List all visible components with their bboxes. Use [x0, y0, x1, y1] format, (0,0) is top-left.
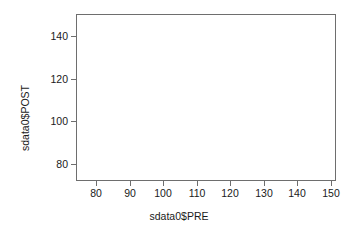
y-tick-mark: [71, 79, 76, 80]
y-tick-mark: [71, 36, 76, 37]
x-tick-label: 90: [124, 188, 136, 199]
y-tick-mark: [71, 121, 76, 122]
y-tick-mark: [71, 164, 76, 165]
x-tick-mark: [130, 181, 131, 186]
x-tick-mark: [163, 181, 164, 186]
data-layer: [77, 15, 335, 180]
x-tick-label: 120: [221, 188, 239, 199]
x-tick-label: 140: [288, 188, 306, 199]
x-tick-mark: [230, 181, 231, 186]
x-tick-mark: [96, 181, 97, 186]
plot-figure: 8090100110120130140150 80100120140 sdata…: [0, 0, 358, 236]
x-tick-label: 130: [255, 188, 273, 199]
x-tick-label: 80: [90, 188, 102, 199]
x-tick-mark: [331, 181, 332, 186]
x-tick-mark: [264, 181, 265, 186]
x-tick-label: 150: [322, 188, 340, 199]
plot-area: [76, 14, 336, 181]
x-tick-label: 100: [154, 188, 172, 199]
x-tick-mark: [297, 181, 298, 186]
y-axis-title: sdata0$POST: [18, 0, 32, 236]
x-tick-mark: [197, 181, 198, 186]
x-tick-label: 110: [189, 188, 206, 199]
x-axis-title: sdata0$PRE: [0, 210, 358, 222]
